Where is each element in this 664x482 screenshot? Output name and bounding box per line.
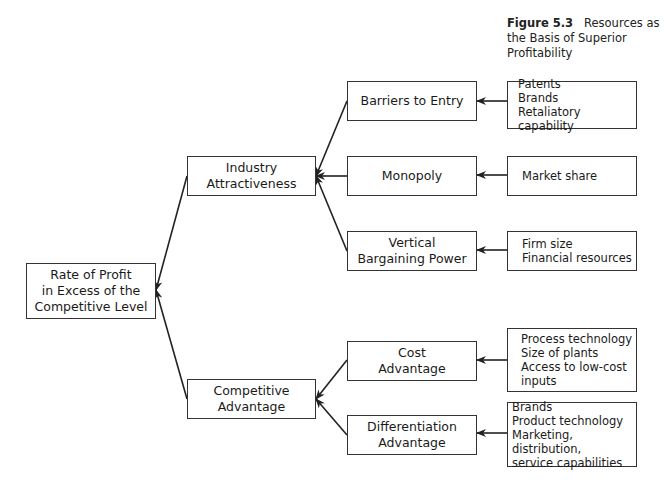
resources-differentiation: Brands Product technology Marketing, dis…: [507, 402, 637, 467]
node-competitive-advantage: Competitive Advantage: [187, 379, 316, 419]
node-industry-attractiveness: Industry Attractiveness: [187, 156, 316, 196]
node-label: Cost Advantage: [378, 345, 445, 377]
resource-list: Process technology Size of plants Access…: [521, 332, 632, 388]
resources-monopoly: Market share: [507, 156, 637, 196]
node-rate-of-profit: Rate of Profit in Excess of the Competit…: [26, 263, 156, 319]
resource-list: Market share: [522, 169, 597, 183]
node-differentiation-advantage: Differentiation Advantage: [347, 415, 477, 455]
resources-barriers: Patents Brands Retaliatory capability: [507, 81, 637, 129]
node-barriers-to-entry: Barriers to Entry: [347, 81, 477, 121]
node-label: Industry Attractiveness: [207, 160, 297, 192]
node-label: Vertical Bargaining Power: [357, 235, 466, 267]
node-label: Barriers to Entry: [361, 93, 464, 109]
resource-list: Firm size Financial resources: [522, 237, 632, 265]
resources-cost: Process technology Size of plants Access…: [507, 328, 637, 392]
resource-list: Patents Brands Retaliatory capability: [518, 77, 636, 133]
node-label: Differentiation Advantage: [367, 419, 457, 451]
resources-vertical: Firm size Financial resources: [507, 231, 637, 271]
node-label: Monopoly: [382, 168, 442, 184]
node-monopoly: Monopoly: [347, 156, 477, 196]
node-label: Competitive Advantage: [213, 383, 289, 415]
node-vertical-bargaining-power: Vertical Bargaining Power: [347, 231, 477, 271]
node-cost-advantage: Cost Advantage: [347, 341, 477, 381]
node-label: Rate of Profit in Excess of the Competit…: [35, 267, 148, 315]
resource-list: Brands Product technology Marketing, dis…: [512, 400, 636, 470]
